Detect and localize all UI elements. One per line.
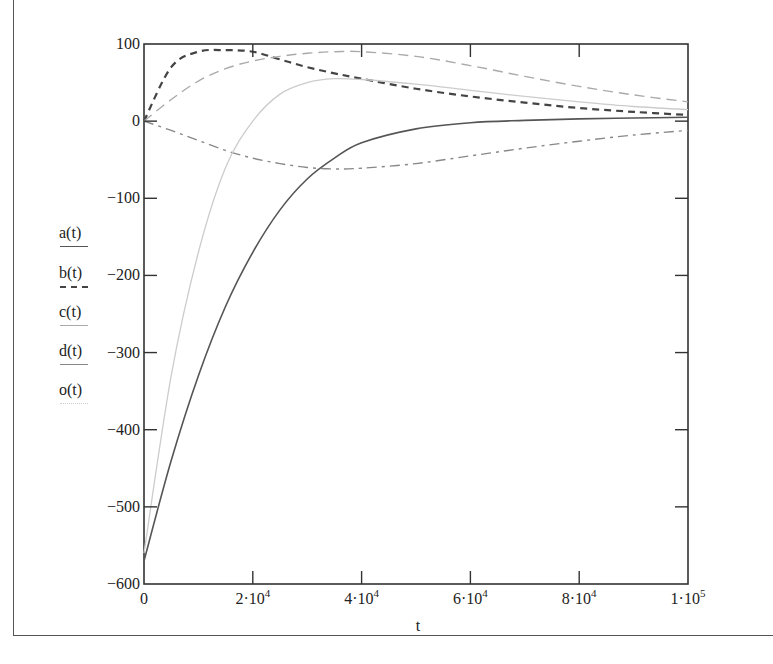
legend-item-c: c(t) (59, 304, 81, 320)
legend-item-a: a(t) (59, 225, 81, 241)
legend-item-d: d(t) (59, 343, 82, 359)
y-tick-label: −400 (107, 421, 140, 438)
x-tick-label: 0 (140, 590, 148, 607)
legend-swatch-dashed (60, 286, 88, 288)
plot-axes (144, 44, 688, 584)
x-tick-label: 8·104 (562, 587, 597, 607)
x-tick-label: 2·104 (235, 587, 270, 607)
series-ot (144, 78, 688, 553)
x-tick-label: 6·104 (453, 587, 488, 607)
y-tick-label: −100 (107, 189, 140, 206)
x-axis-label: t (416, 617, 421, 634)
legend-item-o: o(t) (59, 382, 82, 398)
y-tick-label: −500 (107, 498, 140, 515)
plot-box (144, 44, 688, 584)
legend-label: b(t) (59, 264, 82, 281)
legend-label: c(t) (59, 303, 81, 320)
legend-label: d(t) (59, 342, 82, 359)
plot-series (144, 50, 688, 561)
legend-item-b: b(t) (59, 265, 82, 281)
series-at (144, 117, 688, 561)
y-tick-label: −300 (107, 344, 140, 361)
legend-label: a(t) (59, 224, 81, 241)
series-bt (144, 50, 688, 121)
legend-swatch-dash-dot (60, 364, 88, 365)
legend-label: o(t) (59, 381, 82, 398)
y-tick-label: −600 (107, 575, 140, 592)
legend-swatch-light-dashed (60, 325, 88, 326)
x-tick-label: 1·105 (671, 587, 706, 607)
y-tick-label: 100 (116, 35, 140, 52)
y-tick-label: −200 (107, 266, 140, 283)
legend-swatch-solid (60, 246, 88, 247)
y-tick-label: 0 (132, 112, 140, 129)
legend-swatch-light-solid (60, 403, 88, 404)
x-tick-label: 4·104 (344, 587, 379, 607)
